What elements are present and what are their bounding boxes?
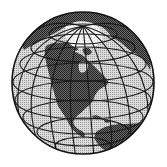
globe-icon [0,0,167,167]
globe-canvas: Black and white halftone globe centered … [0,0,167,167]
